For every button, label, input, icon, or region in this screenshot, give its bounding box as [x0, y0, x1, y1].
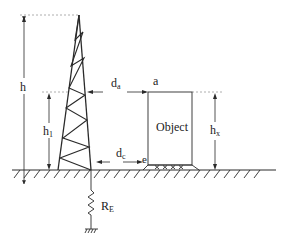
- earthing-resistor: [88, 170, 94, 229]
- lattice-tower: [58, 15, 91, 170]
- ground: [12, 170, 276, 178]
- da-label: da: [111, 76, 121, 91]
- tower-object-diagram: h h1 da a Object e dc: [0, 0, 288, 251]
- reference-dashes: [20, 15, 224, 92]
- object-label: Object: [156, 120, 189, 134]
- tower-bracing: [60, 15, 91, 170]
- re-label: RE: [101, 199, 114, 214]
- h-label: h: [20, 80, 26, 94]
- point-a-label: a: [153, 74, 159, 88]
- h1-label: h1: [43, 124, 53, 139]
- dc-label: dc: [116, 146, 126, 161]
- point-e-label: e: [142, 153, 147, 165]
- foundation-marks: [155, 166, 183, 170]
- dc-dimension: [96, 160, 143, 164]
- ground-hatching: [14, 170, 260, 178]
- h-dimension: [22, 16, 26, 184]
- hx-label: hx: [210, 123, 220, 138]
- ground-symbol-icon: [85, 229, 98, 233]
